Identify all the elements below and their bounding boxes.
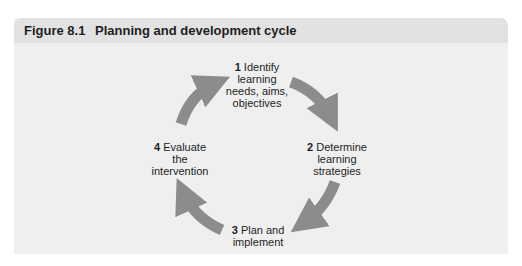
cycle-node-1: 1 Identify learning needs, aims, objecti… [224, 61, 290, 109]
cycle-node-4: 4 Evaluate the intervention [142, 141, 218, 177]
curved-arrow-icon [291, 82, 330, 116]
curved-arrow-icon [184, 194, 222, 230]
cycle-node-2: 2 Determine learning strategies [300, 141, 374, 177]
cycle-node-3: 3 Plan and implement [226, 224, 290, 248]
curved-arrow-icon [305, 182, 335, 222]
curved-arrow-icon [181, 84, 214, 124]
